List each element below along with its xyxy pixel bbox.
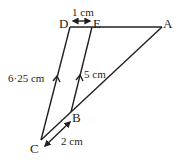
point-label-D: D bbox=[59, 16, 68, 31]
measure-DE: 1 cm bbox=[72, 6, 94, 18]
point-label-E: E bbox=[93, 16, 101, 31]
point-label-B: B bbox=[72, 110, 81, 125]
segment-CA bbox=[41, 27, 162, 140]
measure-CB: 2 cm bbox=[61, 135, 83, 147]
measure-EB: 5 cm bbox=[84, 68, 106, 80]
point-label-C: C bbox=[30, 141, 39, 156]
measure-DC: 6·25 cm bbox=[8, 72, 45, 84]
segment-DC bbox=[41, 27, 70, 140]
point-label-A: A bbox=[163, 16, 173, 31]
triangle-diagram: D E A B C 1 cm 6·25 cm 5 cm 2 cm bbox=[0, 0, 183, 163]
